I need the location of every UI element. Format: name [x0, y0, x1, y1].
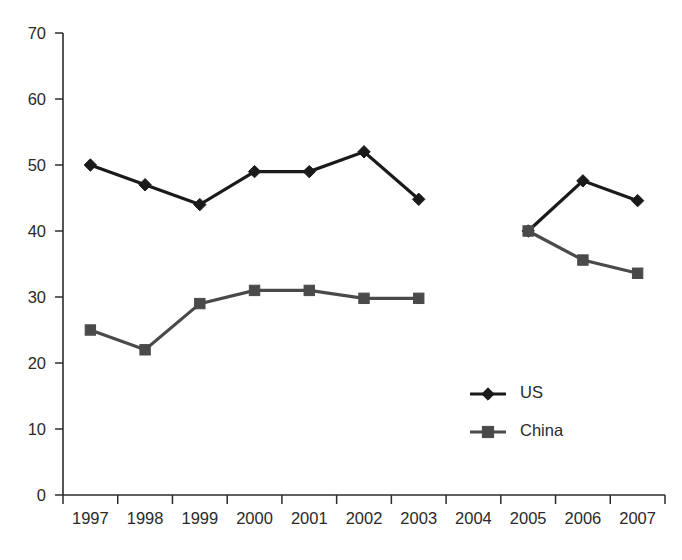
data-point-china-2007	[632, 268, 642, 278]
legend-label-us: US	[520, 383, 543, 401]
data-point-us-1998	[139, 179, 151, 191]
x-tick-label: 1997	[72, 509, 109, 527]
x-tick-label: 2001	[291, 509, 328, 527]
y-tick-label: 10	[28, 420, 46, 438]
y-tick-label: 60	[28, 90, 46, 108]
y-tick-label: 70	[28, 24, 46, 42]
x-tick-label: 2003	[400, 509, 437, 527]
data-point-china-2003	[414, 293, 424, 303]
data-point-china-1997	[85, 325, 95, 335]
data-point-us-2001	[303, 165, 315, 177]
data-point-us-1997	[84, 159, 96, 171]
y-tick-label: 20	[28, 354, 46, 372]
x-tick-label: 2002	[346, 509, 383, 527]
data-point-china-1999	[195, 298, 205, 308]
y-axis: 010203040506070	[28, 24, 63, 504]
legend-label-china: China	[520, 421, 564, 439]
chart-legend: USChina	[470, 383, 564, 439]
x-tick-label: 2006	[565, 509, 602, 527]
legend-marker-us	[482, 388, 494, 400]
data-point-china-2006	[578, 255, 588, 265]
x-tick-label: 1998	[127, 509, 164, 527]
series-layer	[84, 146, 644, 355]
data-point-china-2005	[523, 226, 533, 236]
data-point-us-2007	[631, 194, 643, 206]
x-tick-label: 2004	[455, 509, 492, 527]
legend-marker-china	[482, 426, 493, 437]
series-line-us	[528, 181, 637, 231]
x-tick-label: 2005	[510, 509, 547, 527]
y-tick-label: 0	[37, 486, 46, 504]
data-point-china-2001	[304, 285, 314, 295]
line-chart: 010203040506070 199719981999200020012002…	[0, 0, 682, 560]
x-axis: 1997199819992000200120022003200420052006…	[63, 495, 665, 527]
data-point-china-2002	[359, 293, 369, 303]
chart-canvas: 010203040506070 199719981999200020012002…	[0, 0, 682, 560]
data-point-china-1998	[140, 345, 150, 355]
data-point-china-2000	[249, 285, 259, 295]
y-tick-label: 50	[28, 156, 46, 174]
x-tick-label: 1999	[181, 509, 218, 527]
x-tick-label: 2007	[619, 509, 656, 527]
x-tick-label: 2000	[236, 509, 273, 527]
y-tick-label: 30	[28, 288, 46, 306]
y-tick-label: 40	[28, 222, 46, 240]
series-line-china	[528, 231, 637, 273]
